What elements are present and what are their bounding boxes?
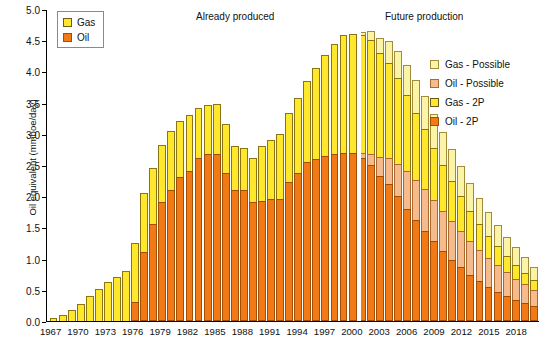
bar-1973[interactable] [104, 282, 112, 321]
legend-label: Gas - Possible [445, 59, 510, 70]
bar-1984[interactable] [204, 105, 212, 321]
segment-g_2p-1994 [294, 98, 302, 173]
bar-1985[interactable] [213, 104, 221, 321]
segment-o_poss-2002 [367, 154, 375, 165]
annotation-already-produced: Already produced [196, 11, 274, 22]
x-tick-label-2006: 2006 [396, 326, 417, 337]
bar-2003[interactable] [376, 38, 384, 321]
bar-1995[interactable] [303, 81, 311, 321]
segment-g_poss-2015 [485, 212, 493, 236]
legend-primary-item-0[interactable]: Gas [63, 15, 95, 29]
bar-2008[interactable] [421, 96, 429, 321]
segment-o_2p-1994 [294, 173, 302, 322]
segment-o_2p-1995 [303, 162, 311, 321]
bar-1982[interactable] [186, 115, 194, 321]
bar-1970[interactable] [77, 304, 85, 321]
bar-2010[interactable] [439, 132, 447, 321]
bar-1991[interactable] [267, 140, 275, 321]
bar-1969[interactable] [68, 310, 76, 321]
bar-2014[interactable] [476, 198, 484, 321]
bar-2012[interactable] [457, 166, 465, 321]
bar-2006[interactable] [403, 65, 411, 321]
segment-g_poss-2003 [376, 38, 384, 53]
bar-1992[interactable] [276, 134, 284, 321]
segment-o_2p-1986 [222, 173, 230, 322]
segment-g_2p-2016 [494, 246, 502, 265]
bar-2013[interactable] [466, 183, 474, 321]
bar-1967[interactable] [50, 318, 58, 321]
bar-1974[interactable] [113, 277, 121, 321]
legend-swatch-icon [63, 18, 72, 27]
bar-1986[interactable] [222, 124, 230, 321]
bar-1988[interactable] [240, 148, 248, 321]
bar-1979[interactable] [158, 145, 166, 321]
legend-detail-item-3[interactable]: Oil - 2P [430, 112, 510, 131]
segment-g_2p-2018 [512, 265, 520, 279]
bar-1990[interactable] [258, 146, 266, 321]
bar-2005[interactable] [394, 51, 402, 321]
bar-1971[interactable] [86, 296, 94, 321]
x-tick-label-1982: 1982 [177, 326, 198, 337]
bar-1989[interactable] [249, 158, 257, 321]
segment-o_2p-1977 [140, 252, 148, 321]
bar-1997[interactable] [321, 55, 329, 321]
y-axis-title: Oil equivalent (mmboe/day) [27, 48, 38, 268]
y-tick-label: 2.0 [0, 192, 40, 203]
bar-1977[interactable] [140, 193, 148, 321]
bar-1975[interactable] [122, 271, 130, 321]
bar-1978[interactable] [149, 168, 157, 321]
segment-o_2p-1991 [267, 199, 275, 321]
segment-g_poss-2017 [503, 237, 511, 256]
legend-detail-item-2[interactable]: Gas - 2P [430, 93, 510, 112]
x-tick-label-2012: 2012 [451, 326, 472, 337]
segment-g_2p-2020 [530, 280, 538, 289]
bar-1987[interactable] [231, 146, 239, 321]
bar-1976[interactable] [131, 243, 139, 321]
bar-2015[interactable] [485, 212, 493, 321]
legend-detail-item-0[interactable]: Gas - Possible [430, 55, 510, 74]
segment-o_2p-1979 [158, 202, 166, 321]
segment-g_2p-1981 [176, 121, 184, 177]
segment-g_poss-2013 [466, 183, 474, 211]
segment-o_poss-2006 [403, 171, 411, 208]
segment-g_poss-2018 [512, 247, 520, 264]
x-tick-label-2009: 2009 [423, 326, 444, 337]
bar-2007[interactable] [412, 80, 420, 321]
x-tick-label-1991: 1991 [259, 326, 280, 337]
x-tick-label-1997: 1997 [314, 326, 335, 337]
segment-o_2p-1988 [240, 190, 248, 321]
bar-2016[interactable] [494, 225, 502, 321]
bar-2000[interactable] [349, 34, 357, 321]
legend-detail-item-1[interactable]: Oil - Possible [430, 74, 510, 93]
segment-o_poss-2015 [485, 258, 493, 287]
bar-2011[interactable] [448, 149, 456, 321]
segment-g_2p-2015 [485, 236, 493, 258]
legend-primary-item-1[interactable]: Oil [63, 30, 95, 44]
bar-2002[interactable] [367, 31, 375, 321]
segment-o_2p-1992 [276, 199, 284, 321]
bar-1994[interactable] [294, 98, 302, 321]
bar-1993[interactable] [285, 113, 293, 321]
bar-2019[interactable] [521, 257, 529, 321]
segment-g_2p-1978 [149, 168, 157, 224]
bar-1999[interactable] [340, 35, 348, 321]
segment-o_2p-1982 [186, 171, 194, 321]
bar-1998[interactable] [331, 44, 339, 321]
x-tick-label-2000: 2000 [341, 326, 362, 337]
segment-g_poss-2004 [385, 41, 393, 62]
bar-2009[interactable] [430, 114, 438, 321]
segment-o_2p-1987 [231, 190, 239, 321]
bar-2018[interactable] [512, 247, 520, 321]
bar-2004[interactable] [385, 41, 393, 321]
bar-1980[interactable] [167, 131, 175, 321]
legend-label: Oil - Possible [445, 78, 504, 89]
bar-1968[interactable] [59, 315, 67, 321]
bar-2020[interactable] [530, 267, 538, 321]
y-tick-label: 5.0 [0, 5, 40, 16]
bar-1972[interactable] [95, 289, 103, 321]
bar-1996[interactable] [312, 68, 320, 321]
bar-2017[interactable] [503, 237, 511, 321]
bar-1983[interactable] [195, 108, 203, 321]
bar-1981[interactable] [176, 121, 184, 321]
y-tick-label: 4.5 [0, 36, 40, 47]
